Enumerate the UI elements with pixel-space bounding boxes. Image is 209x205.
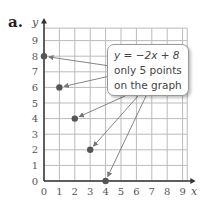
y-arrow-icon [41, 18, 47, 23]
callout-equation: y = −2x + 8 [114, 48, 184, 63]
y-tick-label: 6 [32, 82, 38, 93]
y-tick-label: 1 [32, 160, 38, 171]
data-point [56, 84, 62, 90]
y-tick-label: 2 [32, 144, 38, 155]
x-tick-label: 3 [87, 186, 93, 197]
callout-line2: on the graph [114, 78, 184, 93]
y-tick-label: 8 [32, 51, 38, 62]
leader-line [94, 96, 138, 146]
x-tick-label: 0 [41, 186, 47, 197]
x-tick-label: 6 [133, 186, 139, 197]
callout-line1: only 5 points [114, 63, 184, 78]
data-point [41, 53, 47, 59]
x-axis-label: x [191, 185, 198, 198]
data-point [87, 147, 93, 153]
x-tick-label: 7 [149, 186, 155, 197]
y-axis-label: y [31, 16, 39, 29]
x-tick-label: 5 [118, 186, 124, 197]
x-tick-label: 9 [179, 186, 185, 197]
leader-line [49, 57, 110, 66]
y-tick-label: 5 [32, 98, 38, 109]
leader-line [79, 96, 125, 117]
y-tick-label: 4 [32, 113, 38, 124]
x-tick-label: 1 [56, 186, 62, 197]
y-tick-label: 3 [32, 129, 38, 140]
coordinate-plane: 01234567890123456789xy [0, 0, 209, 205]
data-point [102, 178, 108, 184]
x-tick-label: 2 [72, 186, 78, 197]
y-tick-label: 7 [32, 66, 38, 77]
x-tick-label: 4 [102, 186, 108, 197]
x-tick-label: 8 [164, 186, 170, 197]
x-arrow-icon [190, 178, 195, 184]
data-point [72, 115, 78, 121]
callout-box: y = −2x + 8 only 5 points on the graph [107, 44, 189, 96]
leader-line [64, 76, 110, 86]
y-tick-label: 0 [32, 176, 38, 187]
y-tick-label: 9 [32, 35, 38, 46]
